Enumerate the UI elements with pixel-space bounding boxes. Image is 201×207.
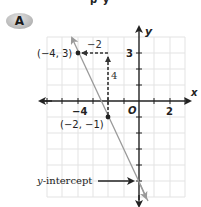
origin-label: O — [128, 105, 137, 116]
x-tick-label-neg4: −4 — [72, 106, 87, 117]
x-axis-label: x — [190, 87, 198, 98]
run-label: −2 — [87, 39, 102, 50]
y-tick-label-3: 3 — [126, 48, 133, 59]
graph-line-bottom-arrow — [140, 184, 146, 198]
grid — [47, 37, 185, 197]
y-axis-label: y — [145, 25, 153, 38]
rise-label: 4 — [111, 70, 117, 81]
point-label: (−2, −1) — [60, 119, 104, 130]
coordinate-graph: x −4 2 O y 3 4 −2 (−4, 3) — [0, 0, 201, 207]
y-intercept-annotation: y-intercept — [36, 175, 133, 186]
svg-text:y-intercept: y-intercept — [36, 175, 92, 186]
point-label: (−4, 3) — [37, 48, 72, 59]
annotation-rest: -intercept — [43, 175, 93, 186]
x-tick-label-2: 2 — [166, 106, 173, 117]
rise-run-indicator: 4 −2 — [82, 39, 117, 115]
x-axis: x −4 2 O — [40, 87, 198, 117]
